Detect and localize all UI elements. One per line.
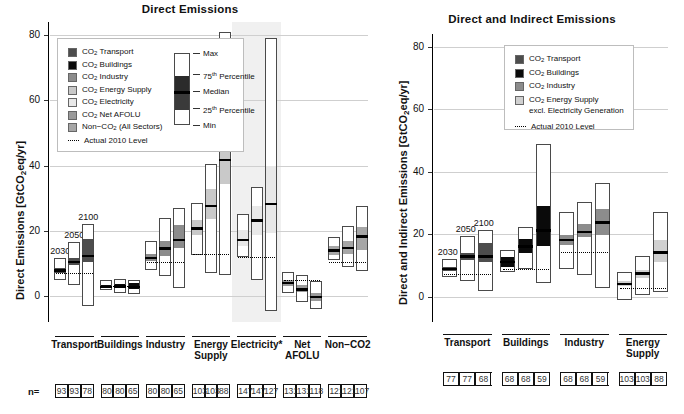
sample-size-row: 808065 — [101, 384, 140, 398]
boxplot-iqr — [479, 243, 492, 262]
sample-size-cell: 68 — [502, 373, 518, 385]
actual-2010-level-line — [329, 262, 366, 263]
y-tick — [44, 231, 48, 232]
category-label: Buildings — [495, 337, 558, 348]
category-label: Industry — [553, 337, 616, 348]
boxplot-key-tick — [193, 53, 200, 54]
legend-item[interactable]: CO2 Energy Supply — [68, 85, 152, 96]
boxplot-bar — [265, 38, 277, 310]
boxplot-key-label: 75th Percentile — [203, 70, 255, 81]
boxplot-bar — [159, 218, 171, 277]
boxplot-median — [68, 261, 80, 264]
y-tick — [428, 234, 432, 235]
legend-item[interactable]: CO2 Energy Supply — [515, 95, 599, 106]
legend-color-swatch — [515, 96, 524, 105]
panel-direct-indirect-emissions: Direct and Indirect Emissions Direct and… — [380, 0, 684, 414]
y-tick — [44, 166, 48, 167]
y-tick — [44, 35, 48, 36]
boxplot-iqr — [357, 227, 367, 250]
legend-item[interactable]: CO2 Net AFOLU — [68, 110, 140, 121]
sample-size-cell: 131 — [296, 385, 309, 397]
actual-2010-level-line — [284, 280, 321, 281]
legend-item[interactable]: Non−CO2 (All Sectors) — [68, 122, 163, 133]
boxplot-bar — [635, 256, 650, 295]
boxplot-key-graphic — [174, 53, 190, 125]
boxplot-median — [328, 249, 340, 252]
year-label-2030: 2030 — [438, 247, 458, 257]
legend-item[interactable]: CO2 Transport — [68, 47, 133, 58]
legend-item[interactable]: CO2 Electricity — [68, 97, 134, 108]
category-label: Non−CO2 — [321, 339, 374, 350]
y-tick — [428, 297, 432, 298]
sample-size-row: 808065 — [146, 384, 185, 398]
legend-item[interactable]: CO2 Transport — [515, 54, 580, 65]
sample-size-row: 939378 — [55, 384, 94, 398]
legend-color-swatch — [515, 82, 524, 91]
y-gridline — [50, 35, 368, 36]
legend-item[interactable]: CO2 Industry — [68, 72, 128, 83]
year-label-2100: 2100 — [78, 212, 98, 222]
legend-panel-left: CO2 TransportCO2 BuildingsCO2 IndustryCO… — [57, 38, 244, 152]
boxplot-bar — [595, 183, 610, 288]
boxplot-bar — [577, 202, 592, 276]
sample-size-cell: 118 — [309, 385, 322, 397]
sample-size-cell: 88 — [217, 385, 230, 397]
sample-size-cell: 65 — [126, 385, 139, 397]
boxplot-bar — [237, 214, 249, 256]
sample-size-cell: 80 — [146, 385, 159, 397]
boxplot-bar — [205, 164, 217, 273]
y-tick-label: 0 — [398, 291, 424, 302]
sample-size-row: 10310388 — [192, 384, 231, 398]
boxplot-median — [356, 235, 368, 238]
boxplot-bar — [173, 208, 185, 288]
legend-item[interactable]: CO2 Industry — [515, 81, 575, 92]
dotted-line-icon — [68, 140, 79, 141]
sample-size-cell: 77 — [459, 373, 475, 385]
y-tick — [44, 296, 48, 297]
legend-color-swatch — [515, 55, 524, 64]
category-rule — [101, 336, 140, 337]
boxplot-bar — [145, 241, 157, 270]
n-label-left: n= — [28, 386, 39, 397]
legend-panel-right: CO2 TransportCO2 BuildingsCO2 IndustryCO… — [504, 45, 634, 130]
sample-size-cell: 103 — [205, 385, 218, 397]
panel-right-title: Direct and Indirect Emissions — [380, 13, 684, 25]
legend-color-swatch — [68, 123, 77, 132]
boxplot-key-label-text: Median — [203, 87, 229, 96]
sample-size-cell: 127 — [263, 385, 276, 397]
legend-item[interactable]: CO2 Buildings — [68, 60, 132, 71]
sample-size-cell: 103 — [192, 385, 205, 397]
boxplot-iqr — [174, 225, 184, 248]
y-tick — [44, 100, 48, 101]
y-tick-label: 40 — [398, 166, 424, 177]
sample-size-cell: 103 — [635, 373, 651, 385]
actual-2010-level-line — [147, 262, 184, 263]
legend-item-actual-2010[interactable]: Actual 2010 Level — [515, 122, 595, 131]
boxplot-bar — [328, 237, 340, 260]
category-rule — [192, 336, 231, 337]
y-tick-label: 80 — [398, 41, 424, 52]
legend-item-label: Actual 2010 Level — [84, 136, 148, 145]
y-axis-line — [48, 22, 49, 322]
category-label: Transport — [436, 337, 499, 348]
sample-size-cell: 68 — [560, 373, 576, 385]
y-tick-label: 0 — [14, 290, 40, 301]
sample-size-cell: 147 — [237, 385, 250, 397]
y-tick — [428, 47, 432, 48]
boxplot-median — [617, 283, 632, 286]
boxplot-bar — [617, 272, 632, 300]
legend-item[interactable]: CO2 Buildings — [515, 68, 579, 79]
actual-2010-level-line — [102, 286, 139, 287]
boxplot-median — [82, 255, 94, 258]
legend-item-label: CO2 Industry — [82, 72, 128, 83]
category-rule — [146, 336, 185, 337]
actual-2010-level-line — [503, 269, 550, 270]
legend-item-sublabel: excl. Electricity Generation — [529, 106, 624, 115]
legend-item-actual-2010[interactable]: Actual 2010 Level — [68, 136, 148, 145]
legend-item-label: CO2 Transport — [82, 47, 133, 58]
legend-color-swatch — [515, 69, 524, 78]
sample-size-cell: 59 — [592, 373, 608, 385]
y-tick-label: 20 — [398, 228, 424, 239]
boxplot-bar — [536, 144, 551, 283]
boxplot-median — [265, 203, 277, 206]
